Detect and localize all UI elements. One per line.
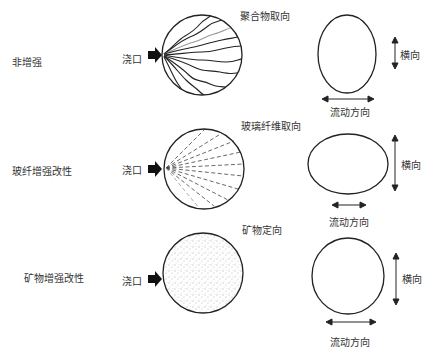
polymer-orientation-disc xyxy=(162,14,244,98)
flow-arrow-icon xyxy=(322,96,374,102)
transverse-label: 横向 xyxy=(402,271,422,286)
flow-arrow-icon xyxy=(326,319,376,325)
shrinkage-ellipse-3 xyxy=(312,238,384,314)
flow-direction-label: 流动方向 xyxy=(329,214,369,229)
flow-direction-label: 流动方向 xyxy=(330,104,370,119)
category-label-unreinforced: 非增强 xyxy=(12,54,42,69)
orientation-label: 矿物定向 xyxy=(242,222,282,237)
transverse-label: 横向 xyxy=(401,157,421,172)
gate-arrow-icon xyxy=(148,271,162,287)
transverse-arrow-icon xyxy=(392,37,398,69)
shrinkage-ellipse-1 xyxy=(318,15,376,93)
flow-direction-label: 流动方向 xyxy=(330,334,370,349)
category-label-mineral: 矿物增强改性 xyxy=(24,270,84,285)
gate-arrow-icon xyxy=(148,47,162,63)
flow-arrow-icon xyxy=(332,202,366,208)
transverse-label: 横向 xyxy=(400,47,420,62)
glass-fiber-orientation-disc xyxy=(164,129,244,209)
orientation-label: 玻璃纤维取向 xyxy=(241,118,301,133)
orientation-label: 聚合物取向 xyxy=(240,8,290,23)
gate-label: 浇口 xyxy=(122,273,142,288)
category-label-glass-fiber: 玻纤增强改性 xyxy=(12,163,72,178)
mineral-orientation-disc xyxy=(163,233,243,313)
gate-label: 浇口 xyxy=(122,51,142,66)
shrinkage-ellipse-2 xyxy=(308,134,388,194)
transverse-arrow-icon xyxy=(393,253,399,305)
transverse-arrow-icon xyxy=(392,135,398,191)
gate-label: 浇口 xyxy=(122,162,142,177)
gate-arrow-icon xyxy=(148,161,162,177)
